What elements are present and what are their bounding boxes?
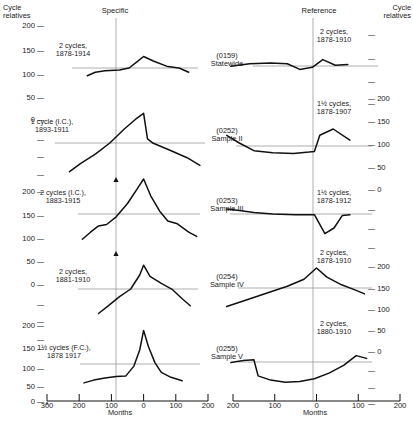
right-tick-18: —: [368, 384, 412, 393]
annotation-left-0254: 2 cycles, 1881-1910: [38, 268, 108, 284]
left-tick-11: 50 —: [0, 258, 44, 267]
right-tick-4: — 200: [368, 95, 412, 104]
left-tick-9: 150 —: [0, 212, 44, 221]
left-tick-10: 100 —: [0, 235, 44, 244]
right-tick-17: —: [368, 367, 412, 376]
left-tick-3: 50 —: [0, 94, 44, 103]
left-tick-13: —: [0, 301, 44, 310]
annotation-right-0254: 2 cycles, 1878-1910: [300, 249, 368, 265]
left-tick-16: 200 —: [0, 322, 44, 331]
left-tick-18: 100 —: [0, 365, 44, 374]
left-tick-2: 100 —: [0, 71, 44, 80]
figure-root: Cycle relatives Cycle relatives Specific…: [0, 0, 413, 422]
right-tick-12: — 200: [368, 263, 412, 272]
left-tick-19: 50 —: [0, 383, 44, 392]
left-axis-title: Cycle relatives: [3, 4, 49, 21]
right-tick-2: —: [368, 78, 412, 87]
column-header-reference: Reference: [288, 7, 350, 16]
x-tick-left-4: 100: [162, 402, 190, 411]
right-tick-8: — 0: [368, 186, 412, 195]
right-tick-9: —: [368, 206, 412, 215]
annotation-right-0252: 1½ cycles, 1878-1907: [300, 100, 368, 116]
x-tick-right-3: 100: [344, 402, 372, 411]
row-label-0252: (0252) Sample II: [196, 127, 258, 144]
right-tick-5: — 150: [368, 118, 412, 127]
right-tick-16: — 0: [368, 348, 412, 357]
x-tick-right-2: 0: [303, 402, 331, 411]
annotation-left-0159: 2 cycles, 1878-1914: [38, 42, 108, 58]
right-tick-1: —: [368, 55, 412, 64]
left-tick-7: —: [0, 171, 44, 180]
x-tick-right-4: 200: [386, 402, 413, 411]
left-tick-12: 0 —: [0, 281, 44, 290]
x-tick-left-5: 200: [194, 402, 222, 411]
right-tick-15: — 50: [368, 327, 412, 336]
left-tick-6: —: [0, 153, 44, 162]
row-label-0159: (0159) Statewide: [196, 52, 258, 69]
right-axis-title: Cycle relatives: [362, 4, 411, 21]
right-tick-14: — 100: [368, 306, 412, 315]
right-tick-0: —: [368, 31, 412, 40]
right-tick-11: —: [368, 244, 412, 253]
x-tick-right-1: 100: [261, 402, 289, 411]
x-tick-left-3: 0: [130, 402, 158, 411]
right-tick-10: —: [368, 225, 412, 234]
row-label-0253: (0253) Sample III: [196, 197, 258, 214]
x-tick-left-2: 100: [97, 402, 125, 411]
left-tick-5: —: [0, 136, 44, 145]
right-tick-13: — 150: [368, 285, 412, 294]
annotation-right-0255: 2 cycles, 1880-1910: [300, 320, 368, 336]
left-tick-0: 200 —: [0, 22, 44, 31]
right-tick-6: — 100: [368, 141, 412, 150]
right-tick-7: — 50: [368, 164, 412, 173]
x-tick-right-0: 200: [219, 402, 247, 411]
row-label-0255: (0255) Sample V: [196, 345, 258, 362]
x-tick-left-0: 300: [33, 402, 61, 411]
x-tick-left-1: 200: [65, 402, 93, 411]
left-tick-1: 150 —: [0, 47, 44, 56]
annotation-right-0253: 1½ cycles, 1878-1912: [300, 189, 368, 205]
row-label-0254: (0254) Sample IV: [196, 273, 258, 290]
annotation-right-0159: 2 cycles, 1878-1910: [300, 28, 368, 44]
left-tick-4: 0 —: [0, 116, 44, 125]
left-tick-8: 200 —: [0, 188, 44, 197]
left-tick-17: 150 —: [0, 345, 44, 354]
column-header-specific: Specific: [86, 7, 144, 16]
